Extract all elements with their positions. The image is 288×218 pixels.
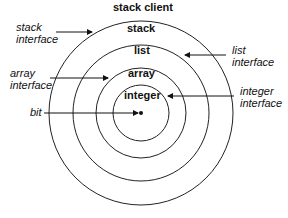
integer-interface-line2: interface: [240, 97, 282, 109]
integer-interface-line1: integer: [240, 85, 282, 97]
list-interface-line1: list: [232, 44, 274, 56]
stack-interface-label: stack interface: [16, 21, 58, 45]
stack-interface-line1: stack: [16, 21, 58, 33]
integer-interface-label: integer interface: [240, 85, 282, 109]
bit-label: bit: [30, 106, 42, 118]
list-interface-line2: interface: [232, 56, 274, 68]
array-interface-label: array interface: [10, 67, 52, 91]
layer-array: array: [128, 67, 155, 79]
array-interface-line1: array: [10, 67, 52, 79]
array-interface-line2: interface: [10, 79, 52, 91]
layer-integer: integer: [124, 89, 161, 101]
bit-point: [139, 111, 143, 115]
layer-stack: stack: [127, 22, 155, 34]
layer-stack-client: stack client: [113, 1, 173, 13]
stack-interface-line2: interface: [16, 33, 58, 45]
layer-list: list: [134, 44, 150, 56]
list-interface-label: list interface: [232, 44, 274, 68]
